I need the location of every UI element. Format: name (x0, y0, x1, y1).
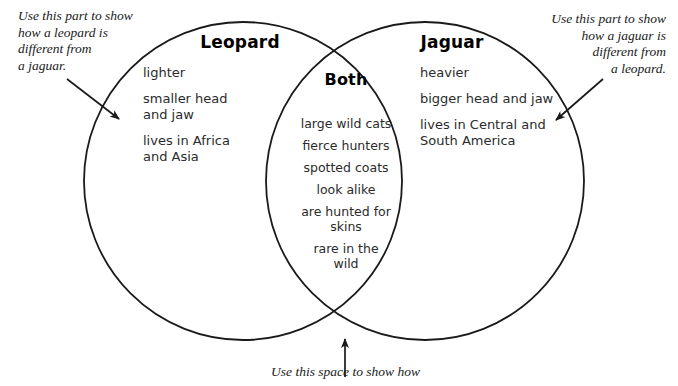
bottom-annotation-text: Use this space to show how (203, 364, 488, 381)
left-annotation-text: Use this part to show how a leopard is d… (18, 8, 198, 74)
venn-diagram-page: Leopard Jaguar Both lighter smaller head… (0, 0, 678, 386)
list-item: bigger head and jaw (420, 91, 572, 107)
right-annotation-text: Use this part to show how a jaguar is di… (498, 11, 666, 77)
list-item: rare in the wild (288, 241, 404, 271)
list-item: spotted coats (288, 160, 404, 175)
list-item: are hunted for skins (288, 204, 404, 234)
left-annotation-arrow (67, 79, 119, 119)
list-item: lives in Central and South America (420, 117, 572, 149)
list-item: large wild cats (288, 116, 404, 131)
both-title: Both (300, 70, 392, 89)
list-item: smaller head and jaw (143, 91, 268, 123)
both-item-list: large wild cats fierce hunters spotted c… (288, 116, 404, 278)
jaguar-item-list: heavier bigger head and jaw lives in Cen… (420, 65, 572, 149)
list-item: lives in Africa and Asia (143, 133, 268, 165)
list-item: look alike (288, 182, 404, 197)
list-item: fierce hunters (288, 138, 404, 153)
leopard-item-list: lighter smaller head and jaw lives in Af… (143, 65, 268, 165)
